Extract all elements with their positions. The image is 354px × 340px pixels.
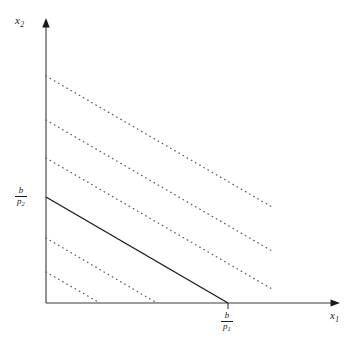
dotted-line-3 [46, 158, 272, 289]
fraction-denominator-text: p [17, 196, 22, 206]
budget-constraint-figure: x2 x1 b p2 b p1 [0, 0, 354, 340]
fraction-denominator-subscript: 2 [22, 200, 25, 207]
plot-canvas [0, 0, 354, 340]
x-axis [46, 299, 340, 306]
fraction-b-over-p1: b p1 [221, 311, 233, 332]
fraction-denominator-text: p [223, 321, 228, 331]
fraction-denominator: p2 [15, 197, 27, 206]
budget-line [46, 197, 228, 303]
fraction-denominator-subscript: 1 [228, 325, 231, 332]
fraction-b-over-p2: b p2 [15, 186, 27, 207]
y-intercept-label: b p2 [15, 186, 27, 207]
fraction-numerator: b [15, 186, 27, 195]
y-axis-label: x2 [15, 15, 24, 26]
dotted-line-1 [46, 76, 272, 207]
x-axis-label-subscript: 1 [335, 315, 339, 324]
dotted-indifference-lines [46, 76, 272, 303]
dotted-line-2 [46, 120, 272, 251]
fraction-denominator: p1 [221, 322, 233, 331]
dotted-line-4 [46, 238, 157, 303]
dotted-line-5 [46, 272, 100, 303]
y-axis [42, 18, 49, 303]
x-intercept-label: b p1 [221, 311, 233, 332]
y-axis-label-subscript: 2 [20, 20, 24, 29]
x-axis-label: x1 [330, 310, 339, 321]
fraction-numerator: b [221, 311, 233, 320]
